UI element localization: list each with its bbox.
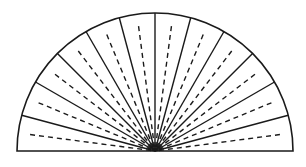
solid-radial-line bbox=[86, 31, 155, 151]
solid-radial-line bbox=[155, 82, 275, 151]
solid-radial-line bbox=[35, 82, 155, 151]
solid-radial-line bbox=[155, 115, 288, 151]
solid-radial-line bbox=[155, 53, 253, 151]
solid-radial-line bbox=[155, 18, 191, 151]
solid-radial-line bbox=[57, 53, 155, 151]
solid-radial-line bbox=[155, 31, 224, 151]
solid-radial-line bbox=[22, 115, 155, 151]
solid-radial-line bbox=[119, 18, 155, 151]
semicircle-fan-diagram bbox=[0, 0, 306, 167]
solid-radial-lines bbox=[22, 13, 289, 151]
